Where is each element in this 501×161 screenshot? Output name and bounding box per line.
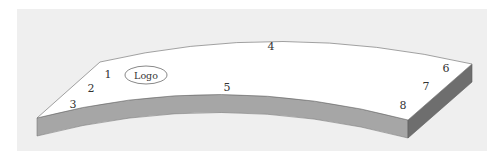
point-label-1: 1 <box>105 68 112 81</box>
curved-slab-diagram: Logo 1 2 3 4 5 6 7 8 <box>0 0 501 161</box>
point-label-5: 5 <box>224 81 231 94</box>
point-label-3: 3 <box>70 98 77 111</box>
logo-label: Logo <box>134 70 158 81</box>
point-label-7: 7 <box>423 80 430 93</box>
point-label-4: 4 <box>268 40 275 53</box>
point-label-8: 8 <box>400 99 407 112</box>
point-label-2: 2 <box>88 82 95 95</box>
logo-placement: Logo <box>125 66 167 84</box>
point-label-6: 6 <box>443 62 450 75</box>
